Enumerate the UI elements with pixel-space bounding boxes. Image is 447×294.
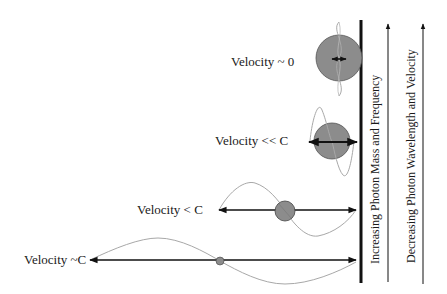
- label-increasing-mass-frequency: Increasing Photon Mass and Frequency: [369, 75, 382, 264]
- photon-particle-tiny: [216, 257, 224, 265]
- label-decreasing-wavelength-velocity: Decreasing Photon Wavelength and Velocit…: [405, 49, 418, 263]
- label-velocity-less-than-c: Velocity < C: [137, 203, 203, 217]
- row-velocity-much-less-than-c: [309, 107, 357, 175]
- label-velocity-near-c: Velocity ~C: [24, 253, 86, 267]
- row-velocity-near-c: [90, 238, 356, 284]
- row-velocity-less-than-c: [219, 182, 356, 236]
- row-velocity-zero: [316, 22, 362, 96]
- label-velocity-zero: Velocity ~ 0: [231, 55, 294, 69]
- label-velocity-much-less-than-c: Velocity << C: [215, 134, 288, 148]
